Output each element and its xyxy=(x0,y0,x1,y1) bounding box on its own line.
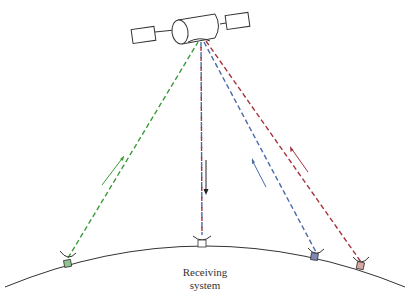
receiving-system-label: Receiving system xyxy=(163,266,247,292)
receiving-system-icon xyxy=(193,236,211,247)
satellite-diagram xyxy=(0,0,413,297)
receiver-label-line1: Receiving xyxy=(163,266,247,279)
blue-station-icon xyxy=(308,248,324,261)
pink-station-icon xyxy=(353,257,369,270)
green-arrow-icon xyxy=(102,156,124,185)
red-beam xyxy=(206,41,361,262)
satellite-icon xyxy=(131,12,250,45)
down-arrow-icon xyxy=(204,160,209,195)
blue-arrow-icon xyxy=(252,158,266,187)
red-arrow-icon xyxy=(290,146,308,172)
receiver-label-line2: system xyxy=(163,279,247,292)
blue-beam xyxy=(204,42,316,252)
green-station-icon xyxy=(60,251,76,267)
green-beam xyxy=(68,42,198,258)
